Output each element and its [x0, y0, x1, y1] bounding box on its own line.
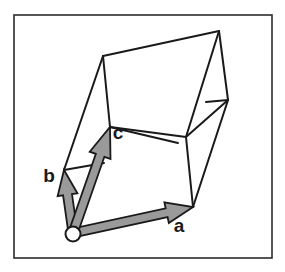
unit-cell-diagram: abc: [0, 0, 285, 272]
label-vector-a: a: [174, 215, 185, 236]
origin-circle: [66, 227, 81, 242]
label-vector-c: c: [113, 122, 124, 143]
label-vector-b: b: [43, 165, 55, 186]
diagram-canvas: abc: [0, 0, 285, 272]
